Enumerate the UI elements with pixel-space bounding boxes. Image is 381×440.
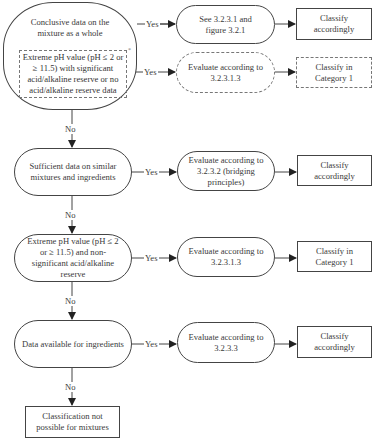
outcome-classify-accordingly: Classify accordingly [297, 155, 372, 186]
action-evaluate-3-2-3-1-3-text: Evaluate according to 3.2.3.1.3 [188, 246, 264, 268]
decision-data-available-ingredients-text: Data available for ingredients [22, 339, 124, 350]
edge-label-no: No [64, 382, 77, 392]
action-evaluate-3-2-3-2: Evaluate according to 3.2.3.2 (bridging … [177, 151, 275, 191]
decision-extreme-ph-non-significant-text: Extreme pH value (pH ≤ 2 or ≥ 11.5) and … [25, 236, 121, 280]
decision-extreme-ph-significant-reserve-text: Extreme pH value (pH ≤ 2 or ≥ 11.5) with… [22, 52, 124, 96]
outcome-classify-accordingly: Classify accordingly [296, 8, 372, 40]
decision-extreme-ph-non-significant: Extreme pH value (pH ≤ 2 or ≥ 11.5) and … [14, 234, 132, 282]
outcome-classify-category-1-dashed-text: Classify in Category 1 [305, 62, 363, 84]
action-see-3-2-3-1: See 3.2.3.1 and figure 3.2.1 [176, 5, 275, 44]
decision-extreme-ph-significant-reserve: Extreme pH value (pH ≤ 2 or ≥ 11.5) with… [19, 50, 127, 98]
edge-label-yes: Yes [143, 67, 158, 77]
edge-label-no: No [64, 296, 77, 306]
edge-label-yes: Yes [145, 19, 160, 29]
outcome-classify-category-1-text: Classify in Category 1 [306, 246, 363, 268]
outcome-classify-category-1-dashed: Classify in Category 1 [296, 57, 372, 88]
edge-label-yes: Yes [144, 339, 159, 349]
outcome-classify-category-1: Classify in Category 1 [297, 241, 372, 272]
decision-sufficient-data-similar: Sufficient data on similar mixtures and … [14, 148, 132, 196]
outcome-classify-accordingly-text: Classify accordingly [306, 331, 363, 353]
decision-sufficient-data-similar-text: Sufficient data on similar mixtures and … [23, 161, 123, 183]
outcome-classification-not-possible: Classification not possible for mixtures [25, 406, 120, 438]
edge-label-yes: Yes [144, 253, 159, 263]
decision-data-available-ingredients: Data available for ingredients [14, 320, 132, 368]
decision-conclusive-data-text: Conclusive data on the mixture as a whol… [4, 17, 136, 39]
action-evaluate-3-2-3-1-3-dashed: Evaluate according to 3.2.3.1.3 [176, 52, 275, 93]
outcome-classify-accordingly-text: Classify accordingly [306, 160, 363, 182]
action-evaluate-3-2-3-3-text: Evaluate according to 3.2.3.3 [188, 332, 264, 354]
flowchart: Yes Yes No Yes No Yes No Yes No Conclusi… [0, 0, 381, 440]
footnote-mark: * [128, 47, 131, 53]
edge-label-no: No [64, 124, 77, 134]
outcome-classification-not-possible-text: Classification not possible for mixtures [36, 411, 109, 433]
edge-label-no: No [64, 210, 77, 220]
action-evaluate-3-2-3-1-3: Evaluate according to 3.2.3.1.3 [177, 237, 275, 277]
action-evaluate-3-2-3-3: Evaluate according to 3.2.3.3 [177, 322, 275, 363]
outcome-classify-accordingly: Classify accordingly [297, 326, 372, 358]
edge-label-yes: Yes [144, 167, 159, 177]
outcome-classify-accordingly-text: Classify accordingly [305, 13, 363, 35]
action-evaluate-3-2-3-2-text: Evaluate according to 3.2.3.2 (bridging … [184, 155, 268, 188]
action-see-3-2-3-1-text: See 3.2.3.1 and figure 3.2.1 [191, 14, 260, 36]
action-evaluate-3-2-3-1-3-dashed-text: Evaluate according to 3.2.3.1.3 [187, 62, 264, 84]
